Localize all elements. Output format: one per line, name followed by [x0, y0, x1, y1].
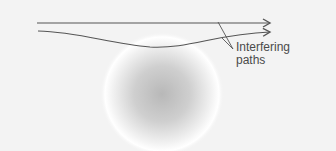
leader-line-top [218, 22, 233, 49]
diagram-svg [0, 0, 336, 151]
interfering-paths-label: Interfering paths [236, 41, 290, 67]
interfering-paths-diagram: Interfering paths [0, 0, 336, 151]
label-line-2: paths [236, 54, 290, 67]
mass-sphere [100, 32, 224, 151]
